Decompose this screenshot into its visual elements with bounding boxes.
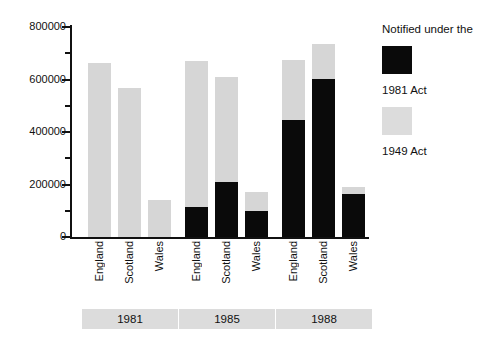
bar-segment-1981-act	[215, 182, 238, 237]
bar-segment-1949-act	[185, 61, 208, 207]
y-tick-label: 400000	[4, 126, 66, 137]
y-tick-label: 0	[4, 231, 66, 242]
chart-legend: Notified under the 1981 Act 1949 Act	[382, 22, 478, 168]
bar-segment-1949-act	[88, 63, 111, 237]
x-tick-label-scotland: Scotland	[221, 241, 232, 284]
x-tick-label-england: England	[191, 241, 202, 281]
bar-scotland-1985[interactable]	[215, 77, 238, 237]
bar-scotland-1988[interactable]	[312, 44, 335, 237]
x-tick-label-wales: Wales	[348, 241, 359, 271]
bar-england-1981[interactable]	[88, 63, 111, 237]
x-tick-label-england: England	[288, 241, 299, 281]
x-axis-line	[70, 237, 369, 239]
legend-entry-1981-act: 1981 Act	[382, 83, 478, 97]
x-tick-label-england: England	[94, 241, 105, 281]
y-tick-label: 600000	[4, 74, 66, 85]
bar-wales-1985[interactable]	[245, 192, 268, 237]
bar-england-1988[interactable]	[282, 60, 305, 237]
x-tick-label-scotland: Scotland	[124, 241, 135, 284]
bar-segment-1949-act	[245, 192, 268, 211]
bar-segment-1981-act	[245, 211, 268, 237]
y-axis-labels: 0200000400000600000800000	[0, 0, 66, 354]
y-tick-label: 800000	[4, 21, 66, 32]
bar-segment-1949-act	[148, 200, 171, 237]
x-axis-group-1985: 1985	[179, 309, 275, 329]
x-tick-label-wales: Wales	[154, 241, 165, 271]
gray-swatch-icon	[382, 107, 412, 135]
bar-wales-1981[interactable]	[148, 200, 171, 237]
bar-segment-1949-act	[312, 44, 335, 79]
bar-segment-1949-act	[342, 187, 365, 194]
chart-root: 0200000400000600000800000 EnglandScotlan…	[0, 0, 480, 354]
legend-entry-1949-act: 1949 Act	[382, 144, 478, 158]
bar-scotland-1981[interactable]	[118, 88, 141, 237]
x-axis-group-1988: 1988	[276, 309, 372, 329]
x-tick-label-wales: Wales	[251, 241, 262, 271]
bar-segment-1981-act	[185, 207, 208, 237]
plot-area	[72, 27, 367, 237]
bar-segment-1949-act	[282, 60, 305, 120]
x-tick-label-scotland: Scotland	[318, 241, 329, 284]
x-axis-category-labels: EnglandScotlandWalesEnglandScotlandWales…	[72, 241, 372, 303]
bar-segment-1981-act	[312, 79, 335, 237]
bar-segment-1981-act	[282, 120, 305, 237]
bar-wales-1988[interactable]	[342, 187, 365, 237]
x-axis-group-1981: 1981	[82, 309, 178, 329]
bar-segment-1949-act	[215, 77, 238, 182]
bar-segment-1981-act	[342, 194, 365, 237]
y-tick-label: 200000	[4, 179, 66, 190]
bar-england-1985[interactable]	[185, 61, 208, 237]
bar-segment-1949-act	[118, 88, 141, 237]
black-swatch-icon	[382, 46, 412, 74]
legend-title: Notified under the	[382, 22, 474, 36]
